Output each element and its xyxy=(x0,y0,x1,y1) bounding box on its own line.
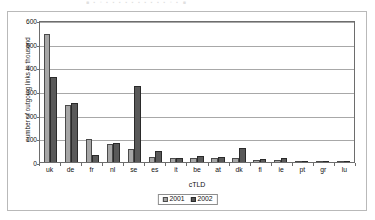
legend-entry-2002[interactable]: 2002 xyxy=(191,196,213,203)
bar-pt-2002 xyxy=(302,161,309,162)
x-tick-mark xyxy=(355,163,356,166)
y-tick-label: 400 xyxy=(26,66,37,73)
bar-group-ie xyxy=(270,22,291,162)
bar-dk-2001 xyxy=(232,158,239,162)
x-tick-label-de: de xyxy=(60,167,81,174)
x-tick-label-be: be xyxy=(186,167,207,174)
bar-fr-2001 xyxy=(86,139,93,162)
y-tick-label: 300 xyxy=(26,90,37,97)
bar-nl-2001 xyxy=(107,144,114,162)
y-tick-label: 200 xyxy=(26,113,37,120)
bar-group-se xyxy=(124,22,145,162)
bar-group-gr xyxy=(312,22,333,162)
bar-group-pt xyxy=(291,22,312,162)
x-tick-mark xyxy=(271,163,272,166)
bar-fi-2002 xyxy=(260,159,267,162)
bar-group-be xyxy=(187,22,208,162)
chart-legend: 20012002 xyxy=(157,194,217,205)
bar-series-container xyxy=(40,22,354,162)
x-tick-label-pt: pt xyxy=(292,167,313,174)
cropped-caption-sliver: ■ ▪ ▫ ▪ ▪ ▪ ▪ ▪ ▪ ▪ ▪ ▪ ▪ ▫ ▪ ■ xyxy=(86,0,296,4)
bar-be-2002 xyxy=(197,156,204,162)
bar-de-2001 xyxy=(65,105,72,162)
bar-de-2002 xyxy=(71,103,78,162)
y-tick-label: 500 xyxy=(26,42,37,49)
bar-ie-2001 xyxy=(274,160,281,162)
x-tick-mark xyxy=(292,163,293,166)
bar-uk-2001 xyxy=(44,34,51,162)
y-tick-label: 100 xyxy=(26,137,37,144)
bar-dk-2002 xyxy=(239,148,246,162)
x-tick-label-lu: lu xyxy=(334,167,355,174)
plot-area: 0100200300400500600 xyxy=(39,21,355,163)
bar-pt-2001 xyxy=(295,161,302,162)
bar-lu-2001 xyxy=(337,161,344,162)
x-axis-title: cTLD xyxy=(39,181,355,188)
x-tick-mark xyxy=(208,163,209,166)
x-tick-mark xyxy=(81,163,82,166)
x-tick-label-it: it xyxy=(165,167,186,174)
bar-group-uk xyxy=(40,22,61,162)
bar-at-2002 xyxy=(218,157,225,162)
x-tick-label-ie: ie xyxy=(271,167,292,174)
bar-se-2001 xyxy=(128,149,135,162)
x-tick-mark xyxy=(250,163,251,166)
bar-group-nl xyxy=(103,22,124,162)
legend-swatch-2001 xyxy=(162,197,167,202)
x-tick-label-nl: nl xyxy=(102,167,123,174)
bar-be-2001 xyxy=(190,158,197,162)
y-tick-label: 600 xyxy=(26,19,37,26)
legend-label-2001: 2001 xyxy=(169,196,184,203)
x-tick-label-es: es xyxy=(144,167,165,174)
bar-es-2001 xyxy=(149,157,156,162)
bar-es-2002 xyxy=(155,151,162,162)
x-tick-mark xyxy=(165,163,166,166)
bar-fi-2001 xyxy=(253,160,260,162)
x-tick-mark xyxy=(186,163,187,166)
x-tick-mark xyxy=(60,163,61,166)
x-tick-mark xyxy=(102,163,103,166)
bar-group-de xyxy=(61,22,82,162)
x-tick-label-uk: uk xyxy=(39,167,60,174)
x-tick-label-fr: fr xyxy=(81,167,102,174)
legend-swatch-2002 xyxy=(191,197,196,202)
x-tick-label-at: at xyxy=(208,167,229,174)
bar-fr-2002 xyxy=(92,155,99,162)
bar-se-2002 xyxy=(134,86,141,162)
bar-group-lu xyxy=(333,22,354,162)
x-tick-label-fi: fi xyxy=(250,167,271,174)
bar-uk-2002 xyxy=(50,77,57,162)
x-axis-tick-labels: ukdefrnlseesitbeatdkfiieptgrlu xyxy=(39,167,355,174)
x-tick-mark xyxy=(313,163,314,166)
bar-it-2002 xyxy=(176,158,183,162)
bar-gr-2002 xyxy=(323,161,330,162)
bar-at-2001 xyxy=(211,158,218,162)
x-tick-mark xyxy=(123,163,124,166)
x-tick-label-dk: dk xyxy=(229,167,250,174)
bar-group-fi xyxy=(249,22,270,162)
x-tick-label-gr: gr xyxy=(313,167,334,174)
bar-it-2001 xyxy=(170,158,177,162)
x-tick-label-se: se xyxy=(123,167,144,174)
bar-ie-2002 xyxy=(281,158,288,162)
bar-group-at xyxy=(208,22,229,162)
bar-group-es xyxy=(145,22,166,162)
x-tick-mark xyxy=(39,163,40,166)
bar-nl-2002 xyxy=(113,143,120,162)
bar-gr-2001 xyxy=(316,161,323,162)
legend-entry-2001[interactable]: 2001 xyxy=(162,196,184,203)
bar-group-it xyxy=(166,22,187,162)
legend-label-2002: 2002 xyxy=(198,196,213,203)
bar-group-fr xyxy=(82,22,103,162)
x-tick-mark xyxy=(229,163,230,166)
bar-group-dk xyxy=(228,22,249,162)
chart-figure: ■ ▪ ▫ ▪ ▪ ▪ ▪ ▪ ▪ ▪ ▪ ▪ ▪ ▫ ▪ ■ number o… xyxy=(0,0,375,220)
x-tick-mark xyxy=(334,163,335,166)
x-tick-mark xyxy=(144,163,145,166)
bar-lu-2002 xyxy=(344,161,351,162)
